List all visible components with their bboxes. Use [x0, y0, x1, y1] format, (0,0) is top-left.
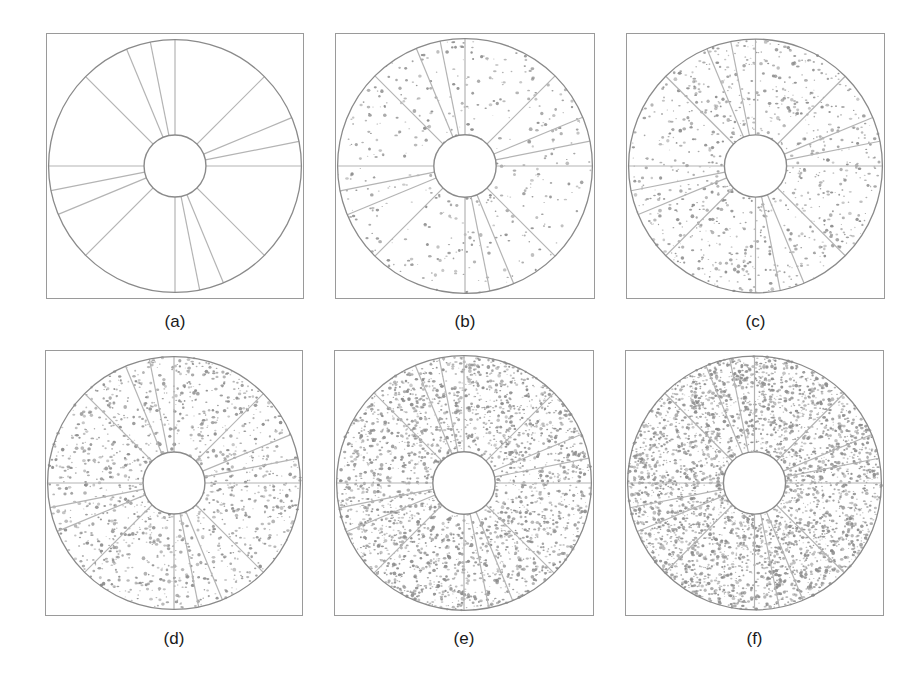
panel-label: (c): [716, 312, 796, 332]
panel-f: (f): [625, 350, 884, 616]
annular-disk-diagram: [335, 33, 595, 299]
panel-a: (a): [46, 33, 304, 299]
inner-circle: [144, 135, 206, 197]
panel-e: (e): [334, 350, 594, 616]
panel-label: (d): [134, 629, 214, 649]
annular-disk-diagram: [334, 350, 594, 616]
annular-disk-diagram: [46, 33, 304, 299]
inner-circle: [143, 452, 205, 514]
panel-label: (f): [715, 629, 795, 649]
inner-circle: [724, 135, 786, 197]
annular-disk-diagram: [625, 350, 884, 616]
panel-label: (b): [425, 312, 505, 332]
inner-circle: [434, 135, 496, 197]
inner-circle: [433, 452, 495, 514]
inner-circle: [723, 452, 785, 514]
annular-disk-diagram: [45, 350, 303, 616]
panel-c: (c): [626, 33, 885, 299]
panel-b: (b): [335, 33, 595, 299]
panel-label: (e): [424, 629, 504, 649]
annular-disk-diagram: [626, 33, 885, 299]
panel-label: (a): [135, 312, 215, 332]
panel-d: (d): [45, 350, 303, 616]
